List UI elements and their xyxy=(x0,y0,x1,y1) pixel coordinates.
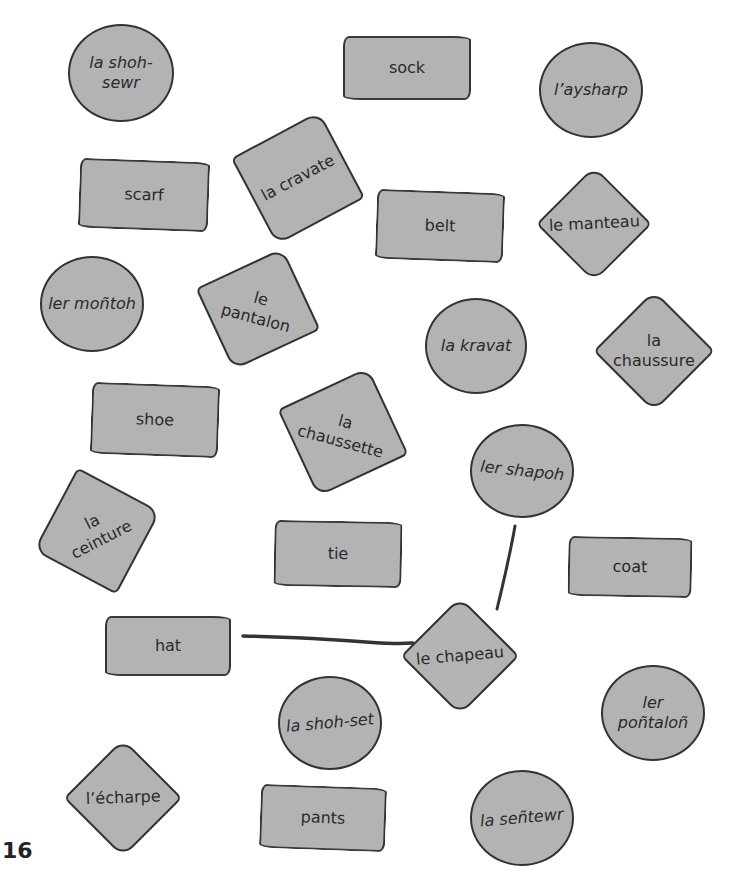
card-label: la cravate xyxy=(258,150,338,205)
card-label: la señtewr xyxy=(480,804,565,831)
card-laysharp[interactable]: l’aysharp xyxy=(539,42,643,138)
card-label: ler poñtaloñ xyxy=(618,693,689,733)
card-la-ceinture[interactable]: la ceinture xyxy=(33,467,160,594)
card-label: la ceinture xyxy=(59,498,136,563)
card-label: coat xyxy=(612,557,647,578)
card-label: le chapeau xyxy=(415,642,504,670)
card-la-sentewr[interactable]: la señtewr xyxy=(470,770,574,866)
card-la-chaussure[interactable]: la chaussure xyxy=(593,290,715,412)
card-hat[interactable]: hat xyxy=(105,616,231,676)
card-label: la chaussure xyxy=(613,331,695,371)
card-lecharpe[interactable]: l’écharpe xyxy=(64,739,183,858)
card-label: shoe xyxy=(136,409,175,430)
card-la-cravate[interactable]: la cravate xyxy=(231,111,365,244)
card-la-shoh-set[interactable]: la shoh-set xyxy=(278,676,382,770)
card-label: tie xyxy=(328,544,349,564)
card-la-shoh-sewr[interactable]: la shoh- sewr xyxy=(68,24,174,122)
card-tie[interactable]: tie xyxy=(273,520,402,588)
card-label: l’écharpe xyxy=(85,787,160,810)
card-belt[interactable]: belt xyxy=(375,189,505,263)
card-shoe[interactable]: shoe xyxy=(90,382,220,458)
card-label: ler moñtoh xyxy=(48,294,136,314)
card-le-pantalon[interactable]: le pantalon xyxy=(195,248,320,370)
card-label: pants xyxy=(300,807,345,829)
card-label: le manteau xyxy=(548,212,640,237)
card-sock[interactable]: sock xyxy=(343,36,471,100)
card-label: la shoh-set xyxy=(285,709,374,737)
card-la-kravat[interactable]: la kravat xyxy=(425,298,527,394)
card-label: la chaussette xyxy=(295,401,390,462)
card-coat[interactable]: coat xyxy=(567,536,692,598)
connector-hat-to-le-chapeau xyxy=(243,636,413,643)
card-ler-shapoh[interactable]: ler shapoh xyxy=(470,424,574,518)
matching-worksheet: la shoh- sewr sock l’aysharp la cravate … xyxy=(0,0,732,883)
card-label: ler shapoh xyxy=(479,457,565,486)
card-la-chaussette[interactable]: la chaussette xyxy=(277,367,408,496)
page-number: 16 xyxy=(2,838,33,863)
card-label: hat xyxy=(155,636,181,656)
card-le-manteau[interactable]: le manteau xyxy=(536,166,652,282)
card-label: l’aysharp xyxy=(554,80,628,100)
card-ler-montoh[interactable]: ler moñtoh xyxy=(40,256,144,352)
card-ler-pontalon[interactable]: ler poñtaloñ xyxy=(601,665,705,761)
card-label: le pantalon xyxy=(219,281,298,338)
card-pants[interactable]: pants xyxy=(259,784,387,852)
card-label: scarf xyxy=(124,184,164,205)
card-label: la shoh- sewr xyxy=(89,53,153,93)
card-label: belt xyxy=(424,215,455,236)
card-le-chapeau[interactable]: le chapeau xyxy=(401,597,520,716)
card-label: la kravat xyxy=(441,336,512,356)
card-scarf[interactable]: scarf xyxy=(78,158,210,232)
connector-le-chapeau-to-ler-shapoh xyxy=(497,526,515,609)
card-label: sock xyxy=(389,58,425,78)
